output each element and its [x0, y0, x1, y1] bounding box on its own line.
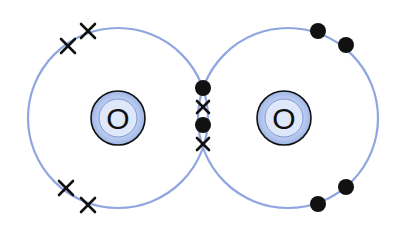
left-oxygen-nucleus: O: [91, 91, 145, 145]
right-lone-electron-dot: [338, 179, 354, 195]
o2-dot-cross-diagram: O O: [0, 0, 398, 234]
left-oxygen-symbol: O: [106, 102, 129, 135]
shared-electron-dot: [195, 80, 211, 96]
shared-electron-dot: [195, 117, 211, 133]
right-oxygen-nucleus: O: [257, 91, 311, 145]
right-lone-electron-dot: [338, 37, 354, 53]
right-lone-electron-dot: [310, 196, 326, 212]
right-oxygen-symbol: O: [272, 102, 295, 135]
right-lone-electron-dot: [310, 23, 326, 39]
